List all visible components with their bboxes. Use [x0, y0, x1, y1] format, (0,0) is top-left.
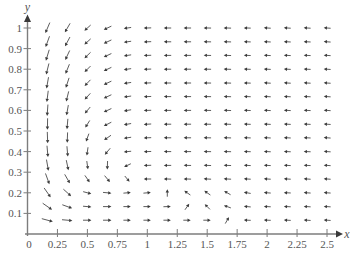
arrow-shaft — [105, 176, 108, 180]
vector-arrow — [84, 25, 90, 30]
vector-arrow — [184, 109, 191, 112]
arrowhead-icon — [124, 54, 127, 57]
vector-arrow — [104, 81, 111, 85]
vector-arrow — [264, 123, 271, 126]
arrowhead-icon — [144, 95, 147, 98]
arrow-shaft — [107, 54, 111, 56]
arrowhead-icon — [124, 26, 127, 29]
vector-arrow — [86, 134, 89, 142]
vector-arrow — [204, 81, 211, 84]
arrowhead-icon — [264, 68, 267, 71]
vector-arrows-layer — [42, 23, 330, 223]
vector-arrow — [304, 191, 310, 194]
arrowhead-icon — [204, 68, 207, 71]
arrowhead-icon — [66, 153, 69, 156]
vector-arrow — [244, 123, 250, 126]
vector-arrow — [184, 136, 191, 139]
arrowhead-icon — [204, 40, 207, 43]
vector-arrow — [124, 26, 131, 29]
arrowhead-icon — [304, 109, 307, 112]
vector-arrow — [244, 177, 250, 180]
arrowhead-icon — [244, 164, 247, 167]
arrowhead-icon — [184, 136, 187, 139]
arrowhead-icon — [244, 123, 247, 126]
vector-arrow — [86, 161, 89, 169]
arrowhead-icon — [124, 40, 127, 43]
arrowhead-icon — [224, 122, 227, 125]
vector-arrow — [304, 68, 310, 71]
arrowhead-icon — [264, 26, 267, 29]
arrow-shaft — [47, 78, 48, 86]
arrowhead-icon — [264, 109, 267, 112]
vector-arrow — [264, 95, 271, 98]
vector-arrow — [204, 40, 211, 43]
arrow-shaft — [187, 193, 190, 195]
arrowhead-icon — [324, 81, 327, 84]
arrowhead-icon — [204, 26, 207, 29]
x-tick-label: 0.25 — [48, 238, 68, 250]
vector-arrow — [304, 164, 310, 167]
arrowhead-icon — [128, 205, 131, 208]
vector-arrow — [204, 191, 210, 195]
vector-arrow — [224, 191, 230, 195]
arrowhead-icon — [244, 205, 247, 208]
arrow-shaft — [87, 134, 89, 139]
vector-arrow — [66, 161, 69, 171]
vector-arrow — [324, 68, 330, 71]
arrowhead-icon — [124, 123, 127, 126]
vector-arrow — [124, 150, 131, 153]
arrowhead-icon — [187, 219, 190, 222]
arrowhead-icon — [284, 219, 287, 222]
arrowhead-icon — [184, 68, 187, 71]
arrow-shaft — [67, 119, 68, 126]
arrowhead-icon — [324, 219, 327, 222]
vector-arrow — [103, 205, 111, 208]
arrow-shaft — [185, 206, 187, 209]
arrowhead-icon — [244, 26, 247, 29]
vector-arrow — [324, 26, 330, 29]
vector-arrow — [164, 109, 171, 112]
y-tick-label: 0.4 — [8, 146, 22, 158]
vector-arrow — [144, 40, 151, 43]
vector-arrow — [304, 109, 310, 112]
vector-arrow — [65, 37, 70, 46]
arrow-shaft — [207, 193, 210, 195]
vector-arrow — [184, 54, 191, 57]
vector-arrow — [62, 219, 72, 222]
vector-arrow — [224, 136, 231, 139]
vector-arrow — [324, 136, 330, 139]
arrowhead-icon — [88, 205, 91, 208]
arrowhead-icon — [164, 123, 167, 126]
arrowhead-icon — [204, 136, 207, 139]
arrowhead-icon — [304, 219, 307, 222]
arrowhead-icon — [284, 95, 287, 98]
arrowhead-icon — [144, 150, 147, 153]
vector-arrow — [66, 133, 69, 143]
vector-arrow — [46, 146, 49, 157]
arrowhead-icon — [88, 191, 92, 194]
arrowhead-icon — [168, 205, 171, 208]
vector-arrow — [124, 205, 131, 208]
vector-arrow — [204, 164, 211, 167]
arrow-shaft — [127, 69, 131, 70]
vector-arrow — [244, 54, 250, 57]
vector-arrow — [65, 105, 68, 115]
arrow-shaft — [225, 220, 227, 223]
vector-arrow — [204, 68, 211, 71]
vector-arrow — [184, 123, 191, 126]
vector-arrow — [85, 66, 91, 72]
vector-arrow — [264, 26, 271, 29]
direction-field-figure: 0.250.50.7511.251.51.7522.252.5 0.10.20.… — [0, 0, 355, 263]
vector-arrow — [264, 109, 271, 112]
y-tick-label: 0.7 — [8, 84, 22, 96]
arrowhead-icon — [164, 150, 167, 153]
vector-arrow — [324, 40, 330, 43]
arrowhead-icon — [304, 150, 307, 153]
vector-arrow — [124, 123, 131, 126]
arrow-shaft — [87, 53, 90, 56]
arrowhead-icon — [124, 68, 127, 71]
arrow-shaft — [87, 80, 90, 83]
vector-arrow — [284, 40, 290, 43]
arrowhead-icon — [264, 219, 267, 222]
arrowhead-icon — [184, 54, 187, 57]
